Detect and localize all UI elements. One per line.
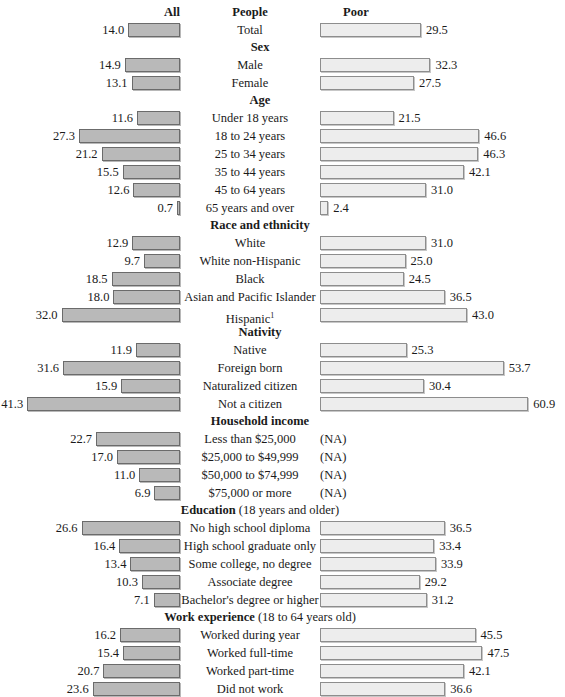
poor-value: 46.6 [484,129,506,144]
all-bar [113,290,180,304]
row-label: Foreign born [180,361,320,376]
poor-value: 29.2 [425,575,447,590]
all-bar [112,272,180,286]
category-heading: Work experience (18 to 64 years old) [100,610,420,625]
row-label: Not a citizen [180,397,320,412]
poor-bar [320,646,482,660]
all-value: 10.3 [0,575,138,590]
poor-value: 36.6 [450,682,472,697]
row-label: Asian and Pacific Islander [180,290,320,305]
all-value: 16.4 [0,539,115,554]
all-value: 0.7 [0,201,173,216]
poor-bar [320,397,528,411]
category-heading: Sex [100,40,420,55]
category-heading: Age [100,93,420,108]
poor-bar [320,628,476,642]
poor-value: 42.1 [469,165,491,180]
all-value: 17.0 [0,450,113,465]
poor-value: 60.9 [533,397,555,412]
all-value: 13.4 [0,557,126,572]
row-label: Naturalized citizen [180,379,320,394]
row-label: Total [180,23,320,38]
all-bar [62,308,180,322]
all-bar [102,147,180,161]
chart-row: 18.0Asian and Pacific Islander36.5 [0,289,565,307]
poor-value: 33.4 [439,539,461,554]
poor-bar [320,343,407,357]
chart-row: 14.0Total29.5 [0,22,565,40]
poor-bar [320,361,504,375]
all-bar [154,486,180,500]
poor-bar [320,201,328,215]
all-value: 16.2 [0,628,116,643]
poor-value-na: (NA) [320,486,346,501]
poor-bar [320,129,479,143]
all-bar [132,76,180,90]
row-label: Worked during year [180,628,320,643]
all-bar [103,664,180,678]
all-value: 14.0 [0,23,124,38]
poor-value: 31.0 [431,183,453,198]
all-value: 11.6 [0,111,133,126]
column-header-poor: Poor [320,5,463,20]
all-bar [121,379,180,393]
all-value: 18.0 [0,290,109,305]
chart-row: 17.0$25,000 to $49,999(NA) [0,449,565,467]
poor-bar [320,165,464,179]
row-label: No high school diploma [180,521,320,536]
row-label: Worked full-time [180,646,320,661]
chart-row: 10.3Associate degree29.2 [0,574,565,592]
all-bar [144,254,180,268]
row-label: 65 years and over [180,201,320,216]
chart-row: 27.318 to 24 years46.6 [0,128,565,146]
chart-row: 15.535 to 44 years42.1 [0,164,565,182]
all-value: 7.1 [0,593,150,608]
all-bar [137,111,180,125]
chart-row: 9.7White non-Hispanic25.0 [0,253,565,271]
chart-row: 13.4Some college, no degree33.9 [0,556,565,574]
poor-value: 31.2 [432,593,454,608]
poor-value-na: (NA) [320,432,346,447]
all-bar [63,361,180,375]
poor-value: 36.5 [450,521,472,536]
all-bar [128,23,180,37]
all-bar [123,646,180,660]
chart-row: 6.9$75,000 or more(NA) [0,485,565,503]
chart-row: 11.6Under 18 years21.5 [0,110,565,128]
all-value: 41.3 [0,397,23,412]
poor-value: 29.5 [426,23,448,38]
chart-row: 14.9Male32.3 [0,57,565,75]
poor-bar [320,682,445,696]
all-value: 6.9 [0,486,150,501]
row-label: High school graduate only [180,539,320,554]
poor-bar [320,557,436,571]
poor-value: 24.5 [409,272,431,287]
poor-value: 25.3 [412,343,434,358]
row-label: 18 to 24 years [180,129,320,144]
all-bar [119,539,180,553]
all-value: 23.6 [0,682,89,697]
all-value: 18.5 [0,272,108,287]
poor-value: 31.0 [431,236,453,251]
poor-bar [320,664,464,678]
poor-value: 53.7 [509,361,531,376]
all-value: 12.9 [0,236,128,251]
all-bar [139,468,180,482]
all-bar [133,183,180,197]
all-value: 21.2 [0,147,98,162]
all-value: 27.3 [0,129,75,144]
all-bar [136,343,180,357]
row-label: Black [180,272,320,287]
all-bar [142,575,180,589]
poor-bar [320,111,394,125]
poor-value: 45.5 [481,628,503,643]
all-bar [123,165,180,179]
all-value: 9.7 [0,254,140,269]
chart-row: 16.4High school graduate only33.4 [0,538,565,556]
poor-value: 46.3 [483,147,505,162]
poor-bar [320,593,427,607]
all-bar [120,628,180,642]
poor-value: 43.0 [472,308,494,323]
poor-bar [320,183,426,197]
chart-row: 23.6Did not work36.6 [0,681,565,697]
